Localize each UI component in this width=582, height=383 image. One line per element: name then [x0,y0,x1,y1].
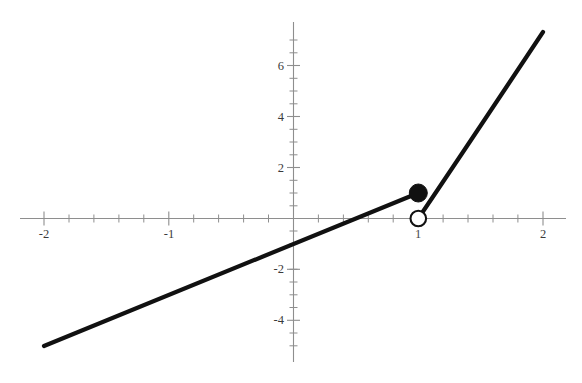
closed-point-marker [409,184,427,202]
x-tick-label--1: -1 [164,227,174,242]
piecewise-function-plot [0,0,582,383]
y-tick-label--2: -2 [274,262,284,277]
y-tick-label-4: 4 [278,109,284,124]
y-tick-label-2: 2 [278,160,284,175]
x-tick-label-2: 2 [540,227,546,242]
y-tick-label-6: 6 [278,58,284,73]
right-branch-curve [418,32,543,219]
left-branch-curve [44,193,418,346]
y-tick-label--4: -4 [274,313,284,328]
x-tick-label--2: -2 [39,227,49,242]
x-tick-label-1: 1 [415,227,421,242]
open-point-marker [411,211,427,227]
chart-figure: -2 -1 1 2 6 4 2 -2 -4 [0,0,582,383]
axes-group [20,22,566,362]
